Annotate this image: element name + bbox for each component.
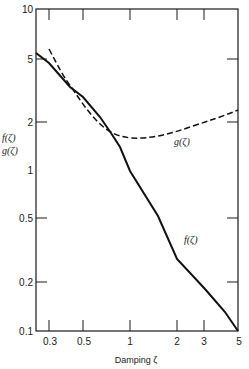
y-tick-0.1: 0.1 [19, 326, 33, 337]
y-tick-0.2: 0.2 [19, 277, 33, 288]
f-curve [36, 53, 238, 331]
y-axis-ticks [36, 59, 238, 282]
y-axis-label-f: f(ζ) [2, 132, 16, 144]
damping-chart: 10 5 2 1 0.5 0.2 0.1 0.3 0.5 1 2 3 5 Dam… [0, 0, 249, 369]
y-tick-1: 1 [27, 165, 33, 176]
x-tick-0.3: 0.3 [43, 336, 57, 347]
x-tick-0.5: 0.5 [77, 336, 91, 347]
plot-frame [36, 9, 238, 331]
y-tick-0.5: 0.5 [19, 213, 33, 224]
g-curve-label: g(ζ) [174, 136, 190, 148]
x-tick-labels: 0.3 0.5 1 2 3 5 [43, 336, 242, 347]
x-axis-ticks [49, 9, 204, 331]
y-tick-labels: 10 5 2 1 0.5 0.2 0.1 [19, 4, 33, 337]
x-tick-1: 1 [127, 336, 133, 347]
x-tick-2: 2 [174, 336, 180, 347]
x-axis-label: Damping ζ [115, 355, 158, 365]
y-tick-10: 10 [22, 4, 34, 15]
x-tick-5: 5 [236, 336, 242, 347]
x-tick-3: 3 [201, 336, 207, 347]
y-tick-5: 5 [27, 54, 33, 65]
y-tick-2: 2 [27, 117, 33, 128]
f-curve-label: f(ζ) [184, 234, 198, 246]
y-axis-label-g: g(ζ) [2, 145, 18, 157]
